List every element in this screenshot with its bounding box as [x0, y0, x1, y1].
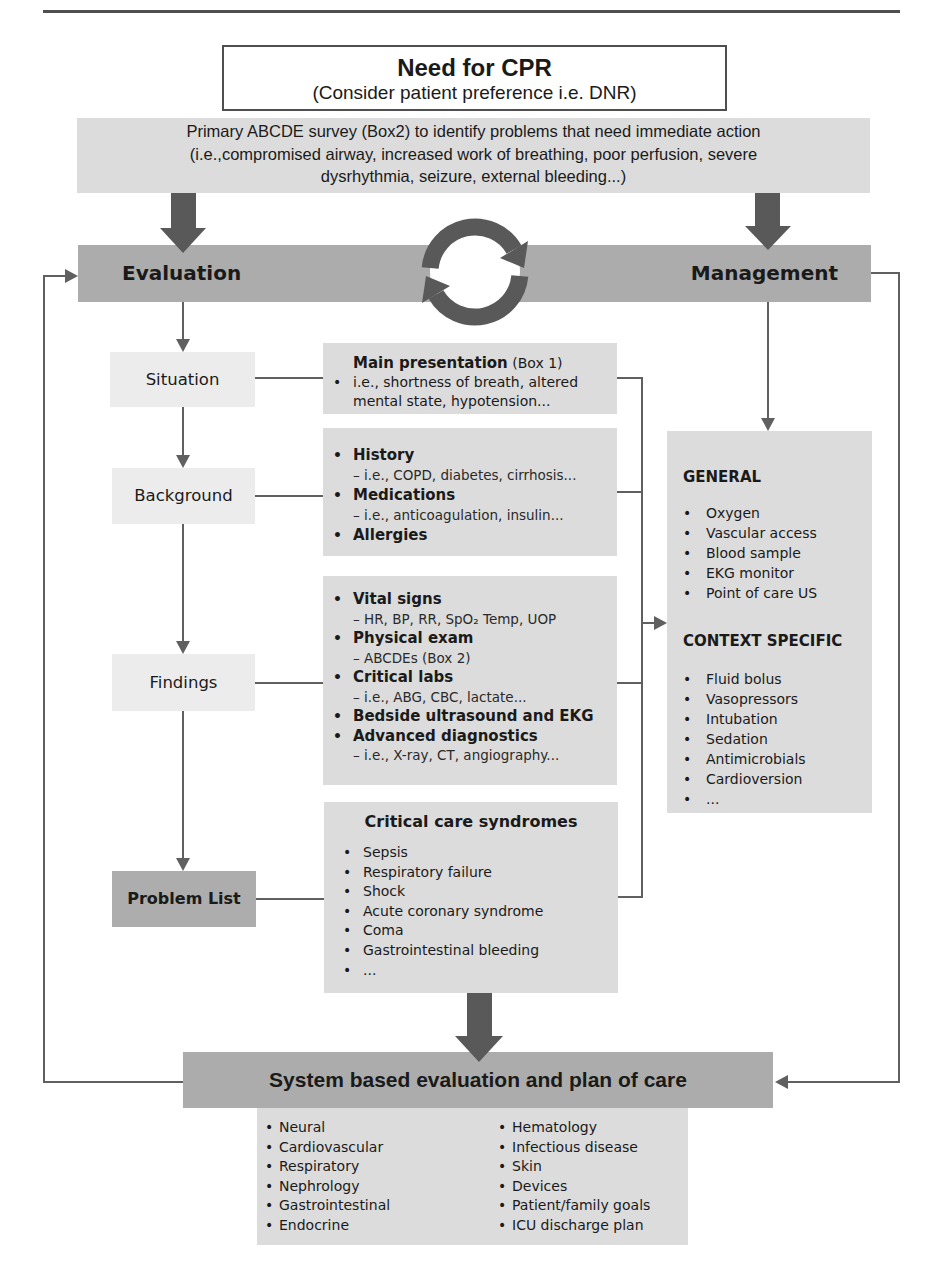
list-item: Patient/family goals — [498, 1196, 650, 1216]
list-item: Infectious disease — [498, 1138, 650, 1158]
list-item: Cardiovascular — [265, 1138, 390, 1158]
survey-line: Primary ABCDE survey (Box2) to identify … — [77, 120, 870, 143]
list-item: Devices — [498, 1177, 650, 1197]
list-item: Point of care US — [683, 583, 872, 603]
step-info-connectors — [255, 378, 324, 899]
list-item: ICU discharge plan — [498, 1216, 650, 1236]
findings-item-detail: – i.e., X-ray, CT, angiography... — [333, 746, 617, 766]
list-item: Oxygen — [683, 503, 872, 523]
step-situation: Situation — [110, 352, 255, 407]
list-item: Blood sample — [683, 543, 872, 563]
step-findings: Findings — [112, 654, 255, 711]
list-item: Coma — [343, 921, 618, 941]
background-item-detail: – i.e., COPD, diabetes, cirrhosis... — [333, 465, 617, 485]
findings-info-box: Vital signs – HR, BP, RR, SpO₂ Temp, UOP… — [323, 576, 617, 785]
findings-item-title: Vital signs — [333, 590, 617, 610]
list-item: Cardioversion — [683, 769, 872, 789]
list-item: Respiratory failure — [343, 863, 618, 883]
evaluation-label: Evaluation — [122, 245, 241, 302]
step-background: Background — [112, 468, 255, 524]
system-list-right: Hematology Infectious disease Skin Devic… — [498, 1118, 650, 1236]
list-item: Acute coronary syndrome — [343, 902, 618, 922]
list-item: Nephrology — [265, 1177, 390, 1197]
list-item: Shock — [343, 882, 618, 902]
management-down-arrow — [761, 302, 775, 431]
list-item: Gastrointestinal — [265, 1196, 390, 1216]
info-to-management-connector — [617, 377, 667, 898]
general-heading: GENERAL — [683, 467, 872, 487]
main-presentation-title: Main presentation — [353, 354, 508, 372]
critical-care-syndromes-box: Critical care syndromes Sepsis Respirato… — [324, 802, 618, 993]
findings-item-detail: – i.e., ABG, CBC, lactate... — [333, 688, 617, 708]
cpr-title: Need for CPR — [224, 55, 725, 81]
findings-item-title: Bedside ultrasound and EKG — [333, 707, 617, 727]
findings-item-title: Physical exam — [333, 629, 617, 649]
background-item-detail: – i.e., anticoagulation, insulin... — [333, 505, 617, 525]
critical-care-list: Sepsis Respiratory failure Shock Acute c… — [324, 843, 618, 980]
main-presentation-line: mental state, hypotension... — [333, 392, 617, 411]
main-presentation-line: i.e., shortness of breath, altered — [333, 373, 617, 392]
list-item: Vascular access — [683, 523, 872, 543]
main-presentation-heading: Main presentation (Box 1) — [333, 354, 617, 373]
main-presentation-box: Main presentation (Box 1) i.e., shortnes… — [323, 343, 617, 414]
list-item: Respiratory — [265, 1157, 390, 1177]
findings-item-title: Critical labs — [333, 668, 617, 688]
list-item: Skin — [498, 1157, 650, 1177]
page-header-rule — [43, 10, 900, 13]
list-item: Gastrointestinal bleeding — [343, 941, 618, 961]
list-item: EKG monitor — [683, 563, 872, 583]
background-item-title: History — [333, 445, 617, 465]
background-item-title: Allergies — [333, 525, 617, 545]
list-item: Vasopressors — [683, 689, 872, 709]
list-item: Sedation — [683, 729, 872, 749]
step-problem-list: Problem List — [112, 871, 256, 927]
main-presentation-ref: (Box 1) — [508, 355, 563, 371]
big-arrow-down-icon — [160, 193, 206, 253]
list-item: Antimicrobials — [683, 749, 872, 769]
survey-line: (i.e.,compromised airway, increased work… — [77, 143, 870, 166]
general-list: Oxygen Vascular access Blood sample EKG … — [683, 503, 872, 603]
list-item: Fluid bolus — [683, 669, 872, 689]
system-list-box: Neural Cardiovascular Respiratory Nephro… — [257, 1108, 688, 1245]
management-label: Management — [691, 245, 838, 302]
primary-survey-box: Primary ABCDE survey (Box2) to identify … — [77, 118, 870, 193]
findings-item-detail: – ABCDEs (Box 2) — [333, 649, 617, 669]
list-item: ... — [343, 961, 618, 981]
cpr-subtitle: (Consider patient preference i.e. DNR) — [224, 81, 725, 105]
findings-item-detail: – HR, BP, RR, SpO₂ Temp, UOP — [333, 610, 617, 630]
list-item: Sepsis — [343, 843, 618, 863]
management-actions-box: GENERAL Oxygen Vascular access Blood sam… — [667, 431, 872, 813]
list-item: Endocrine — [265, 1216, 390, 1236]
system-plan-bar: System based evaluation and plan of care — [183, 1052, 773, 1108]
context-specific-heading: CONTEXT SPECIFIC — [683, 631, 872, 651]
list-item: Intubation — [683, 709, 872, 729]
background-info-box: History – i.e., COPD, diabetes, cirrhosi… — [323, 428, 617, 556]
critical-care-title: Critical care syndromes — [324, 811, 618, 833]
list-item: ... — [683, 789, 872, 809]
cpr-need-box: Need for CPR (Consider patient preferenc… — [222, 45, 727, 111]
big-arrow-down-icon — [745, 193, 791, 250]
survey-line: dysrhythmia, seizure, external bleeding.… — [77, 165, 870, 188]
list-item: Neural — [265, 1118, 390, 1138]
background-item-title: Medications — [333, 485, 617, 505]
list-item: Hematology — [498, 1118, 650, 1138]
findings-item-title: Advanced diagnostics — [333, 727, 617, 747]
system-list-left: Neural Cardiovascular Respiratory Nephro… — [265, 1118, 390, 1236]
cycle-arrows-icon — [415, 212, 535, 332]
context-specific-list: Fluid bolus Vasopressors Intubation Seda… — [683, 669, 872, 809]
